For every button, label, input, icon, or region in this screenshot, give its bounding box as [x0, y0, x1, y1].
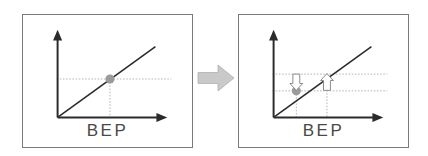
break-even-point-marker: [105, 74, 114, 83]
break-even-chart-after: BEP: [238, 14, 409, 148]
x-axis-arrowhead-icon: [156, 113, 167, 122]
bep-label-after: BEP: [239, 122, 408, 139]
revenue-line: [58, 47, 156, 118]
figure-root: BEP: [0, 0, 428, 156]
revenue-line: [274, 47, 372, 118]
cost-decrease-arrow-icon: [290, 74, 303, 90]
x-axis-arrowhead-icon: [372, 113, 383, 122]
y-axis-arrowhead-icon: [53, 30, 62, 41]
transition-arrow-icon: [197, 63, 235, 93]
bep-label-before: BEP: [23, 122, 192, 139]
transition-arrow: [197, 63, 235, 93]
break-even-chart-before: BEP: [22, 14, 193, 148]
y-axis-arrowhead-icon: [269, 30, 278, 41]
